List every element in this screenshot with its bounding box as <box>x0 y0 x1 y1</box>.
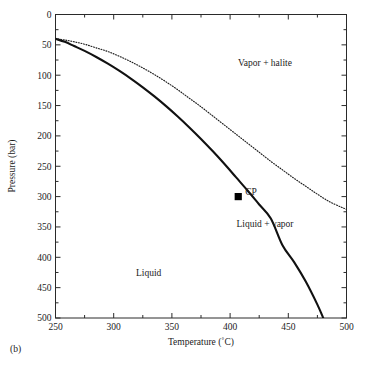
plot-frame <box>56 15 347 319</box>
panel-label: (b) <box>10 344 21 355</box>
region-annotations: Vapor + haliteLiquid + vaporLiquidCP <box>136 58 294 277</box>
x-tick-label: 250 <box>48 322 63 332</box>
x-tick-label: 450 <box>281 322 296 332</box>
phase-diagram-svg: 250300350400450500 050100150200250300350… <box>0 0 369 368</box>
axis-ticks <box>56 15 347 319</box>
y-tick-label: 50 <box>42 40 52 50</box>
critical-point-marker <box>235 193 242 200</box>
y-tick-label: 400 <box>37 253 52 263</box>
data-curves <box>56 39 347 318</box>
annotation-cp: CP <box>245 187 257 197</box>
x-tick-label: 500 <box>339 322 354 332</box>
y-tick-label: 500 <box>37 313 52 323</box>
curve-liquid-vapor <box>56 39 324 318</box>
y-tick-label: 200 <box>37 131 52 141</box>
y-tick-label: 0 <box>47 10 52 20</box>
phase-diagram-figure: 250300350400450500 050100150200250300350… <box>0 0 369 368</box>
x-tick-label: 300 <box>107 322 122 332</box>
x-axis-title: Temperature (˚C) <box>168 337 234 348</box>
y-tick-label: 250 <box>37 162 52 172</box>
y-axis-tick-labels: 050100150200250300350400450500 <box>37 10 52 324</box>
x-axis-tick-labels: 250300350400450500 <box>48 322 354 332</box>
y-tick-label: 100 <box>37 71 52 81</box>
y-tick-label: 450 <box>37 283 52 293</box>
curve-vapor-halite <box>56 39 347 210</box>
y-tick-label: 300 <box>37 192 52 202</box>
y-tick-label: 150 <box>37 101 52 111</box>
x-tick-label: 400 <box>223 322 238 332</box>
annotation-liquid-vapor: Liquid + vapor <box>236 219 294 229</box>
cp-square-marker <box>235 193 242 200</box>
y-axis-title: Pressure (bar) <box>7 139 18 192</box>
annotation-liquid: Liquid <box>136 268 162 278</box>
x-tick-label: 350 <box>165 322 180 332</box>
annotation-vapor-halite: Vapor + halite <box>238 58 292 68</box>
y-tick-label: 350 <box>37 222 52 232</box>
